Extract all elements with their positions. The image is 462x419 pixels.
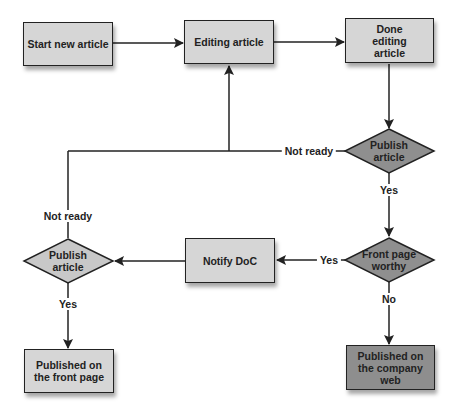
node-label: Published on the company web <box>351 350 430 386</box>
node-label: Start new article <box>27 38 108 50</box>
edge-label-yes-publish-left: Yes <box>56 298 80 310</box>
node-label: Editing article <box>194 36 263 48</box>
decision-front-page-worthy-label: Front page worthy <box>349 246 429 274</box>
edge-label-no-front-page: No <box>379 293 399 305</box>
node-done-editing: Done editing article <box>345 18 434 63</box>
edge-label-yes-publish-right: Yes <box>377 184 401 196</box>
diamond-text: Publish article <box>359 139 419 163</box>
edge-label-not-ready-left: Not ready <box>41 210 95 222</box>
diamond-text: Front page worthy <box>358 248 420 272</box>
diamond-text: Publish article <box>38 249 98 273</box>
edge-label-not-ready-right: Not ready <box>282 145 336 157</box>
node-label: Done editing article <box>360 23 419 59</box>
decision-publish-right-label: Publish article <box>359 137 419 165</box>
node-published-front-page: Published on the front page <box>24 349 114 393</box>
node-published-company-web: Published on the company web <box>346 345 435 390</box>
node-start-new-article: Start new article <box>23 22 113 66</box>
node-notify-doc: Notify DoC <box>185 238 275 283</box>
edge-label-yes-front-page: Yes <box>317 254 341 266</box>
decision-publish-left-label: Publish article <box>38 247 98 275</box>
node-editing-article: Editing article <box>184 20 274 64</box>
node-label: Notify DoC <box>203 255 257 267</box>
node-label: Published on the front page <box>29 359 109 383</box>
